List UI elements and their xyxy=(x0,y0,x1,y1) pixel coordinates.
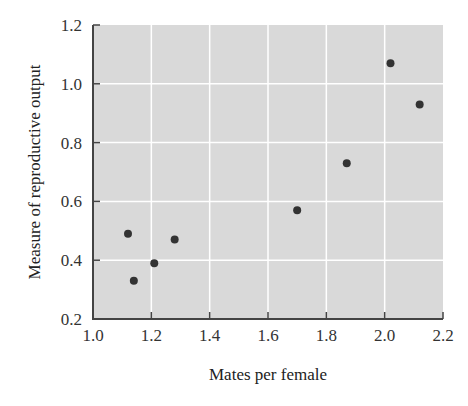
data-point xyxy=(387,59,395,67)
x-tick-label: 1.2 xyxy=(141,326,162,345)
data-point xyxy=(124,230,132,238)
y-tick-label: 0.2 xyxy=(61,310,82,329)
data-point xyxy=(171,236,179,244)
data-point xyxy=(130,277,138,285)
y-tick-label: 0.8 xyxy=(61,134,82,153)
x-tick-label: 1.0 xyxy=(82,326,103,345)
x-tick-label: 1.8 xyxy=(316,326,337,345)
data-point xyxy=(343,159,351,167)
data-point xyxy=(150,259,158,267)
data-point xyxy=(293,206,301,214)
x-tick-label: 2.0 xyxy=(374,326,395,345)
x-axis-title: Mates per female xyxy=(209,365,327,384)
x-tick-label: 2.2 xyxy=(432,326,453,345)
data-point xyxy=(416,100,424,108)
y-tick-label: 0.6 xyxy=(61,192,82,211)
y-tick-label: 0.4 xyxy=(61,251,83,270)
y-tick-label: 1.0 xyxy=(61,75,82,94)
scatter-chart: 1.01.21.41.61.82.02.2 0.20.40.60.81.01.2… xyxy=(0,0,468,406)
y-tick-label: 1.2 xyxy=(61,16,82,35)
x-tick-label: 1.6 xyxy=(257,326,278,345)
x-tick-label: 1.4 xyxy=(199,326,221,345)
y-axis-title: Measure of reproductive output xyxy=(25,64,44,279)
